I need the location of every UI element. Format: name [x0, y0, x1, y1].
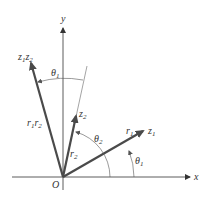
theta2-label: θ2	[94, 133, 103, 146]
arc-theta1-product	[38, 78, 83, 82]
arc-theta2	[76, 132, 110, 177]
r1r2-label: r1r2	[27, 117, 42, 130]
z1-label: z1	[147, 125, 155, 138]
z2-label: z2	[78, 108, 87, 121]
vector-z2	[63, 116, 76, 177]
arc-theta1-z1	[129, 151, 134, 177]
y-axis-label: y	[60, 13, 66, 24]
origin-label: O	[52, 179, 59, 190]
complex-multiplication-diagram: y x O z1 r1 θ1 z2 r2 θ2 z1z2 r1r2 θ1	[0, 0, 209, 205]
theta1-label: θ1	[135, 155, 143, 168]
r1-label: r1	[126, 125, 133, 138]
x-axis-label: x	[193, 171, 199, 182]
r2-label: r2	[70, 148, 78, 161]
theta1-product-label: θ1	[51, 67, 59, 80]
z1z2-label: z1z2	[17, 51, 33, 64]
